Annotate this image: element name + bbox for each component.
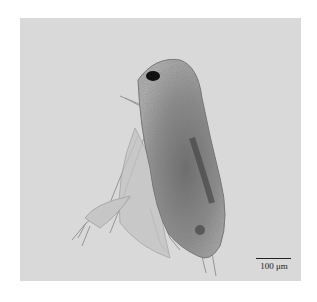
microscope-image-panel: 100 μm [20,18,301,281]
scale-bar-label: 100 μm [256,261,292,271]
copepod-specimen [20,18,301,281]
scale-bar [256,258,291,259]
